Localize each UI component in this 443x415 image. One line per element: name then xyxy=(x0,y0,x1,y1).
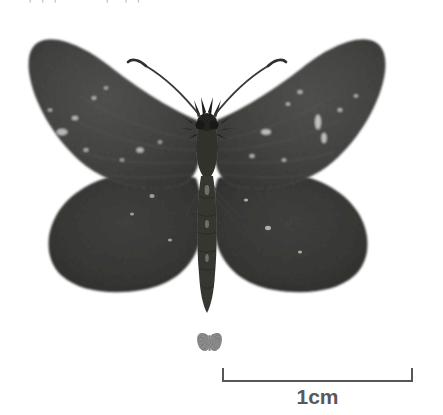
left-hindwing xyxy=(48,172,202,292)
right-hindwing xyxy=(213,172,368,292)
butterfly-silhouette-icon xyxy=(197,333,222,351)
antennae-tips xyxy=(128,60,286,66)
left-forewing xyxy=(29,39,201,188)
scale-bar-tick-left xyxy=(222,368,224,382)
body xyxy=(196,118,218,313)
scale-bar xyxy=(222,368,413,382)
scale-bar-line xyxy=(222,380,413,382)
scale-bar-tick-right xyxy=(411,368,413,382)
scale-bar-label: 1cm xyxy=(222,385,413,409)
specimen-image xyxy=(0,0,443,415)
right-forewing xyxy=(214,39,386,188)
specimen-plate: |·|·| · — ·|· |·| · | ·· xyxy=(0,0,443,415)
